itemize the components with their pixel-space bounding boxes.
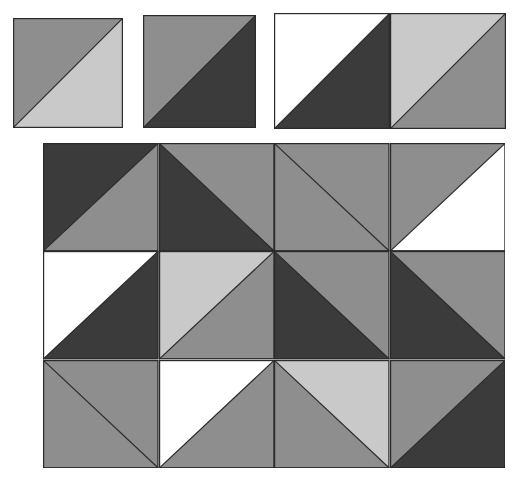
cell-r0-c2 — [274, 143, 390, 251]
cell-r1-c1 — [159, 251, 275, 359]
cell-r0-c3 — [390, 143, 506, 251]
cell-r1-c2 — [274, 251, 390, 359]
cell-r2-c3 — [390, 360, 506, 468]
tile-4 — [390, 13, 506, 129]
figure-root — [0, 0, 517, 483]
cell-r0-c1 — [159, 143, 275, 251]
cell-r1-c0 — [43, 251, 159, 359]
tile-3 — [274, 13, 390, 129]
cell-r2-c2 — [274, 360, 390, 468]
tile-2 — [143, 15, 256, 128]
cell-r2-c0 — [43, 360, 159, 468]
sample-tiles-row — [0, 0, 517, 136]
cell-r2-c1 — [159, 360, 275, 468]
cell-r1-c3 — [390, 251, 506, 359]
pattern-grid — [43, 143, 505, 468]
cell-r0-c0 — [43, 143, 159, 251]
tile-1 — [13, 18, 123, 128]
